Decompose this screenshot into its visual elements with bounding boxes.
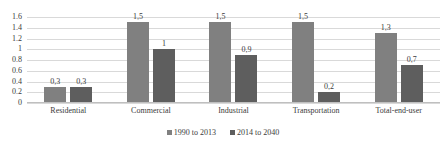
y-tick-label: 1.4 xyxy=(12,24,22,32)
x-axis-line xyxy=(27,102,440,103)
bar-value-label: 1 xyxy=(162,39,166,48)
bar-chart: 00.20.40.60.811.21.41.6 0,30,31,511,50,9… xyxy=(0,0,446,149)
legend-item[interactable]: 2014 to 2040 xyxy=(230,128,279,137)
bar-value-label: 0,2 xyxy=(324,82,334,91)
bar-column: 1,5 xyxy=(209,17,231,103)
bar[interactable] xyxy=(44,87,66,103)
bar[interactable] xyxy=(70,87,92,103)
bar-group: 1,51 xyxy=(110,17,193,103)
bar[interactable] xyxy=(401,65,423,103)
bar-column: 1 xyxy=(153,17,175,103)
bar[interactable] xyxy=(209,22,231,103)
bar-group: 1,30,7 xyxy=(357,17,440,103)
bar-column: 1,5 xyxy=(292,17,314,103)
bar[interactable] xyxy=(127,22,149,103)
bar-column: 0,3 xyxy=(44,17,66,103)
x-tick-label: Industrial xyxy=(192,104,275,120)
legend-item[interactable]: 1990 to 2013 xyxy=(167,128,216,137)
bar-value-label: 0,9 xyxy=(241,45,251,54)
bar-groups: 0,30,31,511,50,91,50,21,30,7 xyxy=(27,17,440,103)
bar-value-label: 1,3 xyxy=(381,23,391,32)
x-tick-label: Transportation xyxy=(275,104,358,120)
bar-column: 0,2 xyxy=(318,17,340,103)
y-tick-label: 0 xyxy=(18,99,22,107)
bar[interactable] xyxy=(153,49,175,103)
bar-column: 0,9 xyxy=(235,17,257,103)
bar-value-label: 1,5 xyxy=(215,12,225,21)
bar[interactable] xyxy=(292,22,314,103)
legend-swatch-icon xyxy=(167,130,172,135)
bar-group: 1,50,2 xyxy=(275,17,358,103)
bar-value-label: 0,3 xyxy=(50,77,60,86)
x-tick-label: Total-end-user xyxy=(357,104,440,120)
y-axis: 00.20.40.60.811.21.41.6 xyxy=(0,17,25,103)
bar[interactable] xyxy=(375,33,397,103)
y-tick-label: 1.6 xyxy=(12,13,22,21)
legend-label: 2014 to 2040 xyxy=(237,128,279,137)
x-tick-label: Residential xyxy=(27,104,110,120)
legend-swatch-icon xyxy=(230,130,235,135)
bar-value-label: 1,5 xyxy=(133,12,143,21)
y-tick-label: 0.6 xyxy=(12,67,22,75)
bar-column: 0,3 xyxy=(70,17,92,103)
legend-label: 1990 to 2013 xyxy=(174,128,216,137)
bar-group: 0,30,3 xyxy=(27,17,110,103)
y-tick-label: 1 xyxy=(18,45,22,53)
bar-column: 0,7 xyxy=(401,17,423,103)
legend: 1990 to 20132014 to 2040 xyxy=(0,128,446,137)
bar-value-label: 0,7 xyxy=(407,55,417,64)
y-tick-label: 1.2 xyxy=(12,35,22,43)
bar-column: 1,3 xyxy=(375,17,397,103)
x-tick-label: Commercial xyxy=(110,104,193,120)
y-tick-label: 0.8 xyxy=(12,56,22,64)
bar[interactable] xyxy=(235,55,257,103)
bar-value-label: 0,3 xyxy=(76,77,86,86)
y-tick-label: 0.4 xyxy=(12,78,22,86)
x-axis-labels: ResidentialCommercialIndustrialTransport… xyxy=(27,104,440,120)
y-tick-label: 0.2 xyxy=(12,88,22,96)
bar-column: 1,5 xyxy=(127,17,149,103)
plot-area: 0,30,31,511,50,91,50,21,30,7 xyxy=(27,17,440,103)
bar-group: 1,50,9 xyxy=(192,17,275,103)
bar-value-label: 1,5 xyxy=(298,12,308,21)
